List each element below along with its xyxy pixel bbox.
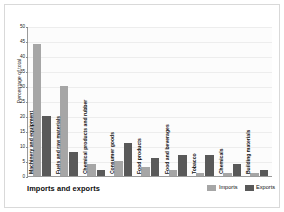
category-label: Chemical products and rubber [83, 100, 88, 174]
bar-imports[interactable] [196, 173, 205, 176]
y-tick-label: 10 [20, 145, 25, 150]
category-label: Machinery and equipment [29, 111, 34, 174]
bar-group: Food products [137, 27, 164, 176]
bar-exports[interactable] [97, 170, 106, 176]
y-tick-label: 0 [22, 175, 25, 180]
bar-exports[interactable] [151, 158, 160, 176]
bar-group: Consumer goods [110, 27, 137, 176]
chart-figure: Percentage of total 05101520253035404550… [0, 0, 284, 212]
legend-item[interactable]: Imports [207, 185, 237, 191]
bar-imports[interactable] [60, 86, 69, 176]
bar-group: Chemicals [219, 27, 246, 176]
y-tick-label: 40 [20, 55, 25, 60]
category-label: Food products [137, 138, 142, 174]
bar-exports[interactable] [233, 164, 242, 176]
category-label: Building materials [246, 129, 251, 174]
bar-exports[interactable] [178, 155, 187, 176]
bar-group: Fuels and raw materials [55, 27, 82, 176]
legend: ImportsExports [207, 185, 275, 191]
legend-swatch [245, 185, 254, 191]
bar-imports[interactable] [223, 173, 232, 176]
y-tick-label: 50 [20, 25, 25, 30]
category-label: Consumer goods [110, 132, 115, 174]
y-tick-label: 25 [20, 100, 25, 105]
category-label: Tobacco [192, 153, 197, 174]
chart-title: Imports and exports [27, 184, 100, 193]
category-label: Food and beverages [165, 124, 170, 174]
bar-imports[interactable] [87, 164, 96, 176]
y-tick-label: 5 [22, 160, 25, 165]
legend-label: Imports [219, 185, 238, 191]
bar-series-container: Machinery and equipmentFuels and raw mat… [28, 27, 272, 176]
y-tick-mark [26, 177, 28, 178]
y-tick-label: 45 [20, 40, 25, 45]
bar-exports[interactable] [124, 143, 133, 176]
bar-group: Tobacco [191, 27, 218, 176]
plot-area: 05101520253035404550 Machinery and equip… [27, 27, 272, 177]
bar-group: Chemical products and rubber [82, 27, 109, 176]
bar-group: Machinery and equipment [28, 27, 55, 176]
bar-exports[interactable] [42, 116, 51, 176]
legend-item[interactable]: Exports [245, 185, 275, 191]
bar-imports[interactable] [250, 173, 259, 176]
legend-label: Exports [256, 185, 275, 191]
bar-imports[interactable] [141, 167, 150, 176]
bar-exports[interactable] [69, 152, 78, 176]
y-tick-label: 20 [20, 115, 25, 120]
y-tick-label: 15 [20, 130, 25, 135]
y-tick-label: 35 [20, 70, 25, 75]
bar-exports[interactable] [205, 155, 214, 176]
y-tick-label: 30 [20, 85, 25, 90]
category-label: Chemicals [219, 148, 224, 174]
bar-imports[interactable] [114, 161, 123, 176]
bar-exports[interactable] [260, 170, 269, 176]
category-label: Fuels and raw materials [56, 116, 61, 174]
legend-swatch [207, 185, 216, 191]
bar-group: Food and beverages [164, 27, 191, 176]
bar-group: Building materials [246, 27, 273, 176]
